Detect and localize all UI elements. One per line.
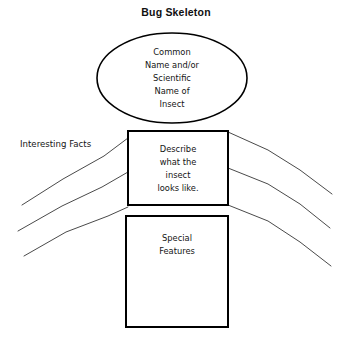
worksheet-canvas: Bug Skeleton CommonName and/orScientific… — [0, 0, 353, 354]
abdomen-line: Features — [159, 246, 195, 256]
thorax-box[interactable] — [128, 131, 228, 205]
head-line: Insect — [160, 99, 186, 109]
thorax-line: Describe — [160, 144, 196, 154]
head-line: Scientific — [153, 73, 191, 83]
thorax-line: looks like. — [157, 183, 198, 193]
leg-line-right-5[interactable] — [228, 168, 330, 228]
leg-line-left-2[interactable] — [18, 172, 128, 231]
page-title: Bug Skeleton — [141, 6, 211, 18]
bug-skeleton-diagram: Bug Skeleton CommonName and/orScientific… — [0, 0, 353, 354]
head-line: Common — [153, 47, 190, 57]
head-line: Name of — [154, 86, 190, 96]
head-line: Name and/or — [145, 60, 200, 70]
thorax-line: what the — [160, 157, 197, 167]
leg-line-right-4[interactable] — [228, 132, 332, 194]
leg-line-left-3[interactable] — [24, 207, 128, 256]
thorax-line: insect — [166, 170, 192, 180]
leg-line-right-6[interactable] — [228, 205, 331, 266]
interesting-facts-label: Interesting Facts — [20, 139, 92, 149]
abdomen-line: Special — [162, 233, 192, 243]
